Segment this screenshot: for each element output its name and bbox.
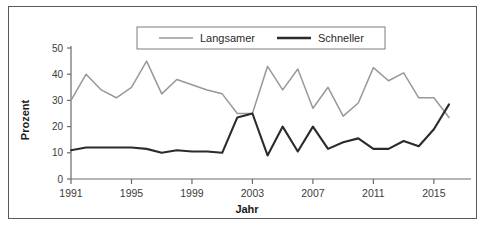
y-tick-label: 40 <box>52 69 64 80</box>
legend-label-schneller: Schneller <box>318 32 364 44</box>
y-tick-label: 50 <box>52 43 64 54</box>
x-axis-ticks: 1991199519992003200720112015 <box>59 179 445 199</box>
chart-legend: LangsamerSchneller <box>137 27 385 49</box>
x-tick-label: 2007 <box>301 187 325 199</box>
x-axis-title: Jahr <box>235 203 259 215</box>
y-tick-label: 20 <box>52 121 64 132</box>
axis-lines <box>71 46 471 179</box>
line-chart: Prozent Jahr 01020304050 199119951999200… <box>9 7 478 220</box>
series-line-schneller <box>71 104 449 155</box>
legend-label-langsamer: Langsamer <box>200 32 255 44</box>
y-tick-label: 0 <box>57 174 63 185</box>
x-tick-label: 2003 <box>241 187 265 199</box>
x-tick-label: 1999 <box>180 187 204 199</box>
y-axis-ticks: 01020304050 <box>52 43 71 185</box>
x-tick-label: 1995 <box>120 187 144 199</box>
y-tick-label: 10 <box>52 147 64 158</box>
y-tick-label: 30 <box>52 95 64 106</box>
series-line-langsamer <box>71 61 449 117</box>
y-axis-title: Prozent <box>19 99 31 140</box>
chart-figure-frame: Prozent Jahr 01020304050 199119951999200… <box>8 6 477 219</box>
screenshot-root: Prozent Jahr 01020304050 199119951999200… <box>0 0 487 240</box>
x-tick-label: 2011 <box>362 187 385 199</box>
x-tick-label: 2015 <box>422 187 446 199</box>
data-series-group <box>71 61 449 155</box>
x-tick-label: 1991 <box>59 187 83 199</box>
chart-plot-canvas: Prozent Jahr 01020304050 199119951999200… <box>9 7 478 220</box>
